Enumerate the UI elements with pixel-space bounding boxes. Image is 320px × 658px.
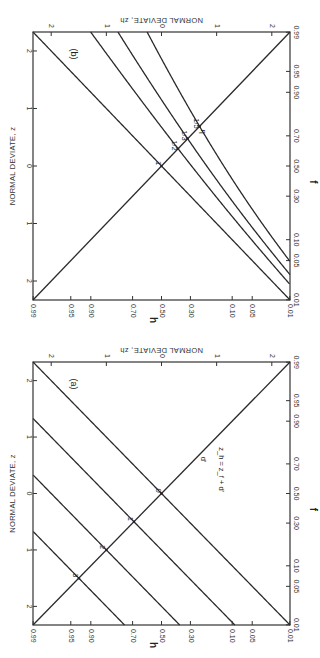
zf-tick-label: 0 <box>26 492 33 496</box>
zh-tick-label: 1 <box>104 354 111 358</box>
f-tick-label: 0.70 <box>293 129 300 143</box>
f-tick-label: 0.10 <box>293 233 300 247</box>
curve-label: 2 <box>98 545 107 549</box>
f-tick-label: 0.95 <box>293 65 300 79</box>
h-tick-label: 0.30 <box>188 629 195 643</box>
h-tick-label: 0.95 <box>68 629 75 643</box>
f-tick-label: 0.70 <box>293 457 300 471</box>
f-tick-label: 0.90 <box>293 85 300 99</box>
panel-label: (b) <box>69 49 79 60</box>
zh-tick-label: 1 <box>214 354 221 358</box>
zh-tick-label: 2 <box>269 354 276 358</box>
zf-axis-label: NORMAL DEVIATE, z <box>8 127 17 205</box>
h-tick-label: 0.30 <box>188 304 195 318</box>
f-tick-label: 0.99 <box>293 355 300 369</box>
curve-label: 1/2 <box>170 140 179 150</box>
zh-tick-label: 2 <box>48 354 55 358</box>
curve-label: 1 <box>126 517 135 521</box>
h-tick-label: 0.10 <box>229 629 236 643</box>
h-tick-label: 0.05 <box>249 629 256 643</box>
f-tick-label: 0.50 <box>293 159 300 173</box>
h-tick-label: 0.50 <box>159 629 166 643</box>
zf-tick-label: 2 <box>26 379 33 383</box>
f-tick-label: 0.50 <box>293 487 300 501</box>
curve-label: 1/5 <box>192 118 201 128</box>
curve-label: 1 <box>154 161 163 165</box>
intersection-point <box>133 521 135 523</box>
h-tick-label: 0.10 <box>229 304 236 318</box>
zf-tick-label: 2 <box>26 604 33 608</box>
roc-curve-1-2 <box>91 32 290 284</box>
zf-tick-label: 1 <box>26 435 33 439</box>
f-tick-label: 0.95 <box>293 394 300 408</box>
h-tick-label: 0.99 <box>30 304 37 318</box>
zh-tick-label: 2 <box>48 24 55 28</box>
h-tick-label: 0.70 <box>130 304 137 318</box>
h-tick-label: 0.05 <box>249 304 256 318</box>
panel-b: 0.010.050.100.300.500.700.900.950.990.01… <box>8 16 319 323</box>
zf-tick-label: 1 <box>26 222 33 226</box>
h-tick-label: 0.70 <box>130 629 137 643</box>
h-tick-label: 0.50 <box>159 304 166 318</box>
f-tick-label: 0.99 <box>293 25 300 39</box>
f-axis-label: f <box>308 508 319 512</box>
h-tick-label: 0.01 <box>287 304 294 318</box>
zf-tick-label: 0 <box>26 164 33 168</box>
zf-tick-label: 2 <box>26 279 33 283</box>
h-axis-label: h <box>148 642 159 648</box>
parameter-symbol: η <box>199 129 208 133</box>
zh-tick-label: 2 <box>269 24 276 28</box>
zh-axis-label: NORMAL DEVIATE, zh <box>120 346 203 355</box>
parameter-symbol: d' <box>199 457 208 463</box>
zf-tick-label: 1 <box>26 548 33 552</box>
roc-curve-1-5 <box>147 32 290 261</box>
h-tick-label: 0.90 <box>88 304 95 318</box>
h-tick-label: 0.99 <box>30 629 37 643</box>
curve-label: 1/3 <box>180 130 189 140</box>
intersection-point <box>160 165 162 167</box>
formula-label: z_h = z_f + d' <box>217 447 226 492</box>
f-tick-label: 0.30 <box>293 189 300 203</box>
zh-tick-label: 1 <box>214 24 221 28</box>
zf-tick-label: 1 <box>26 107 33 111</box>
f-tick-label: 0.90 <box>293 414 300 428</box>
f-tick-label: 0.30 <box>293 516 300 530</box>
roc-curve-1-3 <box>118 32 290 275</box>
f-tick-label: 0.10 <box>293 559 300 573</box>
h-axis-label: h <box>148 317 159 323</box>
panel-label: (a) <box>69 379 79 390</box>
zh-axis-label: NORMAL DEVIATE, zh <box>120 16 203 25</box>
zh-tick-label: 1 <box>104 24 111 28</box>
f-tick-label: 0.05 <box>293 254 300 268</box>
intersection-point <box>160 492 162 494</box>
f-axis-label: f <box>308 180 319 184</box>
zf-axis-label: NORMAL DEVIATE, z <box>8 454 17 532</box>
zf-tick-label: 2 <box>26 49 33 53</box>
h-tick-label: 0.95 <box>68 304 75 318</box>
curve-label: 0 <box>154 488 163 492</box>
figure: 0.010.050.100.300.500.700.900.950.990.01… <box>0 0 320 658</box>
h-tick-label: 0.01 <box>287 629 294 643</box>
curve-label: 3 <box>71 573 80 577</box>
h-tick-label: 0.90 <box>88 629 95 643</box>
panel-a: 0.010.050.100.300.500.700.900.950.990.01… <box>8 346 319 648</box>
intersection-point <box>105 549 107 551</box>
intersection-point <box>78 577 80 579</box>
f-tick-label: 0.05 <box>293 580 300 594</box>
